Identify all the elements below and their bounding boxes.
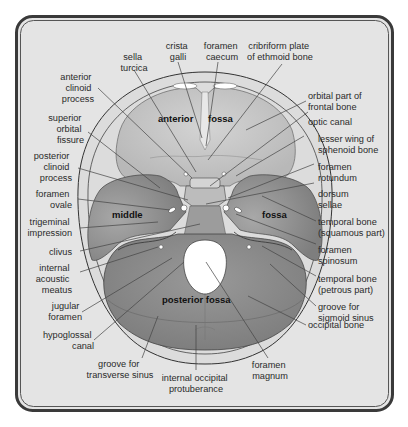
label-foramen-spinosum: foramen spinosum xyxy=(318,245,358,266)
label-occipital-bone: occipital bone xyxy=(308,320,364,330)
label-lesser-wing-sphenoid: lesser wing of sphenoid bone xyxy=(318,134,378,155)
cranial-floor-diagram: anterior fossa middle fossa posterior fo… xyxy=(0,0,408,427)
sella-turcica-shape xyxy=(184,186,226,206)
label-optic-canal: optic canal xyxy=(308,117,352,127)
label-temporal-bone-squamous: temporal bone (squamous part) xyxy=(318,217,385,238)
label-foramen-rotundum: foramen rotundum xyxy=(318,162,357,183)
region-middle: middle xyxy=(112,209,143,220)
region-anterior-fossa: fossa xyxy=(208,113,234,124)
region-middle-fossa: fossa xyxy=(262,209,288,220)
label-temporal-bone-petrous: temporal bone (petrous part) xyxy=(318,274,379,295)
label-clivus: clivus xyxy=(49,247,72,257)
label-internal-occipital-protuberance: internal occipital protuberance xyxy=(162,373,230,394)
label-trigeminal-impression: trigeminal impression xyxy=(28,217,72,238)
label-foramen-caecum: foramen caecum xyxy=(204,41,240,62)
label-jugular-foramen: jugular foramen xyxy=(48,301,82,322)
skull-base: anterior fossa middle fossa posterior fo… xyxy=(78,72,332,364)
label-anterior-clinoid-process: anterior clinoid process xyxy=(60,72,94,104)
label-foramen-magnum: foramen magnum xyxy=(252,360,288,381)
region-posterior-fossa: posterior fossa xyxy=(162,294,231,305)
label-cribriform-plate: cribriform plate of ethmoid bone xyxy=(247,41,313,62)
label-sella-turcica: sella turcica xyxy=(120,52,148,73)
label-internal-acoustic-meatus: internal acoustic meatus xyxy=(36,263,73,295)
label-orbital-part-frontal-bone: orbital part of frontal bone xyxy=(308,91,364,112)
